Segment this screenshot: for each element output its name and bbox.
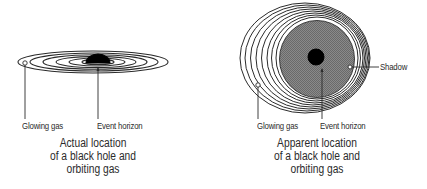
apparent-location-diagram: [240, 3, 379, 119]
event-horizon-icon: [308, 49, 324, 65]
actual-location-diagram: [18, 51, 168, 119]
apparent-location-caption: Apparent location of a black hole and or…: [260, 137, 375, 176]
glowing-gas-marker: [23, 61, 27, 65]
actual-location-caption: Actual location of a black hole and orbi…: [36, 137, 151, 176]
caption-line: orbiting gas: [260, 163, 375, 176]
event-horizon-label: Event horizon: [97, 120, 143, 131]
caption-line: orbiting gas: [36, 163, 151, 176]
shadow-label: Shadow: [380, 61, 407, 72]
event-horizon-label: Event horizon: [320, 120, 366, 131]
glowing-gas-marker: [256, 83, 260, 87]
shadow-marker: [348, 65, 352, 69]
glowing-gas-label: Glowing gas: [257, 120, 298, 131]
glowing-gas-label: Glowing gas: [22, 120, 63, 131]
